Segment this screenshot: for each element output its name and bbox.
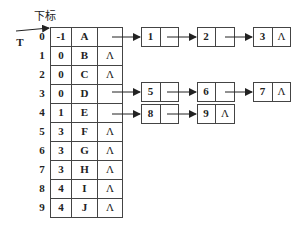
pointer-label-t: T — [14, 33, 26, 52]
cell-child-null: Λ — [98, 198, 122, 217]
cell-child-null: Λ — [98, 122, 122, 141]
row-index: 0 — [36, 27, 48, 46]
list-node-value: 8 — [141, 104, 160, 123]
cell-child-null: Λ — [98, 160, 122, 179]
cell-data: H — [72, 160, 97, 179]
index-header-label: 下标 — [34, 7, 56, 23]
row-index: 9 — [36, 198, 48, 217]
row-index: 4 — [36, 103, 48, 122]
cell-data: I — [72, 179, 97, 198]
row-index: 8 — [36, 179, 48, 198]
cell-data: D — [72, 84, 97, 103]
null-pointer: Λ — [215, 104, 235, 123]
row-index: 5 — [36, 122, 48, 141]
cell-child-null: Λ — [98, 141, 122, 160]
cell-parent: 1 — [51, 103, 71, 122]
cell-data: G — [72, 141, 97, 160]
list-node-value: 2 — [197, 27, 215, 46]
row-index: 2 — [36, 65, 48, 84]
cell-data: J — [72, 198, 97, 217]
list-node-value: 6 — [197, 82, 215, 101]
row-index: 1 — [36, 46, 48, 65]
cell-parent: 0 — [51, 65, 71, 84]
parent-child-linked-list-diagram: 下标 T 0-1A10BΛ20CΛ30D41E53FΛ63GΛ73HΛ84IΛ9… — [0, 0, 303, 233]
row-index: 6 — [36, 141, 48, 160]
cell-parent: 3 — [51, 160, 71, 179]
row-index: 3 — [36, 84, 48, 103]
cell-parent: 3 — [51, 122, 71, 141]
cell-data: E — [72, 103, 97, 122]
null-pointer: Λ — [272, 82, 291, 101]
row-index: 7 — [36, 160, 48, 179]
cell-parent: -1 — [51, 27, 71, 46]
cell-parent: 0 — [51, 84, 71, 103]
list-node-value: 7 — [253, 82, 272, 101]
list-node-value: 1 — [141, 27, 160, 46]
cell-child-null: Λ — [98, 46, 122, 65]
list-node-value: 3 — [253, 27, 272, 46]
cell-parent: 4 — [51, 198, 71, 217]
cell-data: C — [72, 65, 97, 84]
cell-data: B — [72, 46, 97, 65]
null-pointer: Λ — [272, 27, 291, 46]
cell-parent: 4 — [51, 179, 71, 198]
cell-data: A — [72, 27, 97, 46]
cell-child-null: Λ — [98, 65, 122, 84]
list-node-value: 5 — [141, 82, 160, 101]
cell-child-null: Λ — [98, 179, 122, 198]
cell-parent: 3 — [51, 141, 71, 160]
cell-data: F — [72, 122, 97, 141]
list-node-value: 9 — [197, 104, 215, 123]
cell-parent: 0 — [51, 46, 71, 65]
